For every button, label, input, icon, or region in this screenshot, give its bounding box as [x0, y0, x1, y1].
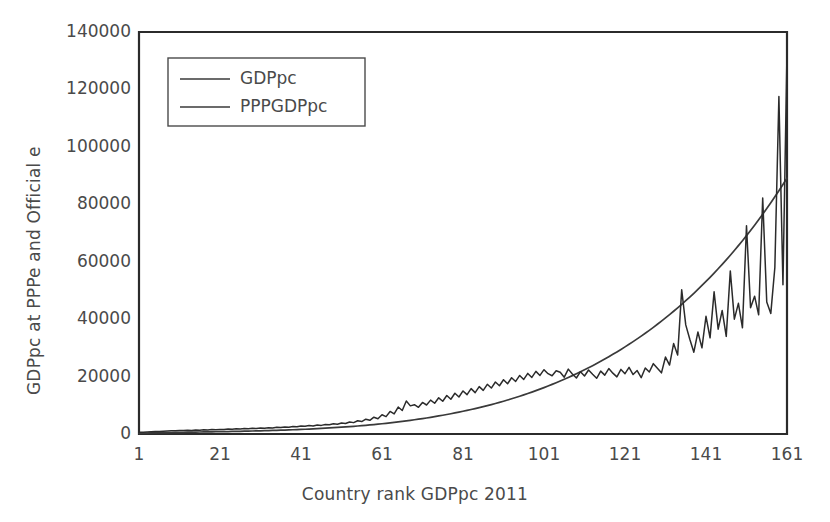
legend-label-pppgdppc: PPPGDPpc [240, 96, 327, 116]
legend-label-gdppc: GDPpc [240, 68, 297, 88]
chart-figure: GDPpc at PPPe and Official e Country ran… [0, 0, 830, 522]
series-line-gdppc [139, 178, 787, 433]
plot-canvas [0, 0, 830, 522]
